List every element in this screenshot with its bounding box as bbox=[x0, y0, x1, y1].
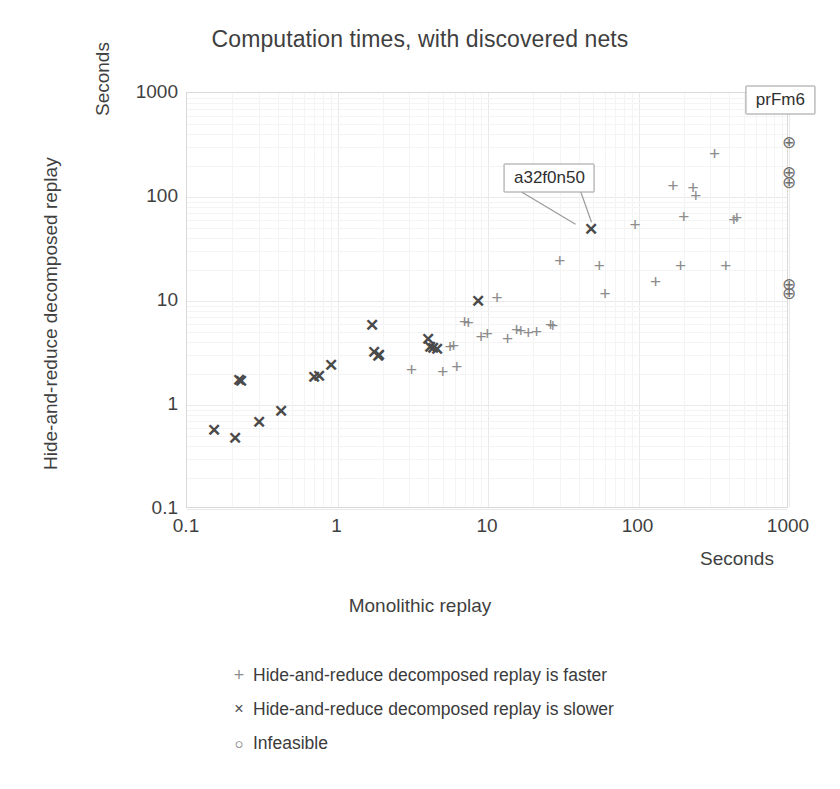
legend-item: ○Infeasible bbox=[228, 726, 668, 760]
chart-legend: +Hide-and-reduce decomposed replay is fa… bbox=[228, 658, 668, 760]
data-point-circle: ⊕ bbox=[782, 173, 796, 190]
data-point-plus: + bbox=[492, 287, 503, 306]
legend-marker-plus-icon: + bbox=[228, 665, 250, 686]
data-point-cross: ✕ bbox=[252, 414, 266, 431]
data-point-plus: + bbox=[678, 207, 689, 226]
data-point-plus: + bbox=[463, 312, 474, 331]
legend-marker-cross-icon: × bbox=[228, 700, 250, 718]
data-point-plus: + bbox=[675, 256, 686, 275]
data-point-plus: + bbox=[720, 256, 731, 275]
data-point-cross: ✕ bbox=[274, 402, 288, 419]
data-point-cross: ✕ bbox=[584, 221, 598, 238]
data-point-plus: + bbox=[451, 357, 462, 376]
data-point-plus: + bbox=[650, 272, 661, 291]
data-point-cross: ✕ bbox=[471, 293, 485, 310]
data-point-cross: ✕ bbox=[228, 430, 242, 447]
x-axis-tick-label: 10 bbox=[476, 515, 497, 537]
x-axis-tick-label: 0.1 bbox=[173, 515, 199, 537]
data-point-plus: + bbox=[531, 322, 542, 341]
legend-label: Infeasible bbox=[253, 733, 328, 754]
data-point-plus: + bbox=[406, 360, 417, 379]
data-point-plus: + bbox=[731, 208, 742, 227]
data-point-plus: + bbox=[547, 315, 558, 334]
y-axis-tick-labels: 10001001010.1 bbox=[110, 92, 178, 508]
y-axis-tick-label: 10 bbox=[118, 289, 178, 311]
data-point-cross: ✕ bbox=[365, 316, 379, 333]
data-point-circle: ⊕ bbox=[782, 90, 796, 107]
data-point-plus: + bbox=[600, 283, 611, 302]
legend-label: Hide-and-reduce decomposed replay is slo… bbox=[253, 699, 614, 720]
data-markers-layer: ✕✕✕✕✕✕✕✕✕✕✕✕✕✕✕✕✕✕✕+++++++++++++++++++++… bbox=[187, 93, 789, 509]
grid-line-horizontal bbox=[187, 509, 787, 510]
data-point-plus: + bbox=[594, 256, 605, 275]
x-axis-title: Monolithic replay bbox=[0, 595, 840, 617]
data-point-circle: ⊕ bbox=[782, 284, 796, 301]
data-point-plus: + bbox=[668, 176, 679, 195]
y-axis-tick-label: 1000 bbox=[118, 81, 178, 103]
x-axis-tick-label: 1 bbox=[331, 515, 342, 537]
x-axis-tick-label: 1000 bbox=[767, 515, 809, 537]
legend-item: +Hide-and-reduce decomposed replay is fa… bbox=[228, 658, 668, 692]
data-point-plus: + bbox=[690, 185, 701, 204]
y-axis-tick-label: 0.1 bbox=[118, 497, 178, 519]
scatter-chart-figure: Computation times, with discovered nets … bbox=[0, 0, 840, 789]
x-axis-tick-labels: 0.11101001000 bbox=[186, 515, 788, 541]
data-point-plus: + bbox=[554, 250, 565, 269]
data-point-cross: ✕ bbox=[234, 372, 248, 389]
legend-marker-circ-icon: ○ bbox=[228, 735, 250, 752]
data-point-plus: + bbox=[630, 215, 641, 234]
data-point-cross: ✕ bbox=[430, 341, 444, 358]
plot-area: ✕✕✕✕✕✕✕✕✕✕✕✕✕✕✕✕✕✕✕+++++++++++++++++++++… bbox=[186, 92, 788, 508]
y-axis-tick-label: 1 bbox=[118, 393, 178, 415]
x-axis-unit-label: Seconds bbox=[700, 548, 774, 570]
data-point-plus: + bbox=[709, 143, 720, 162]
data-point-cross: ✕ bbox=[207, 422, 221, 439]
y-axis-title: Hide-and-reduce decomposed replay bbox=[40, 157, 62, 470]
x-axis-tick-label: 100 bbox=[622, 515, 654, 537]
data-point-plus: + bbox=[448, 336, 459, 355]
legend-item: ×Hide-and-reduce decomposed replay is sl… bbox=[228, 692, 668, 726]
data-point-cross: ✕ bbox=[372, 346, 386, 363]
data-point-cross: ✕ bbox=[324, 357, 338, 374]
legend-label: Hide-and-reduce decomposed replay is fas… bbox=[253, 665, 607, 686]
data-point-plus: + bbox=[482, 324, 493, 343]
chart-title: Computation times, with discovered nets bbox=[0, 26, 840, 53]
y-axis-tick-label: 100 bbox=[118, 185, 178, 207]
data-point-plus: + bbox=[437, 362, 448, 381]
data-point-circle: ⊕ bbox=[782, 133, 796, 150]
